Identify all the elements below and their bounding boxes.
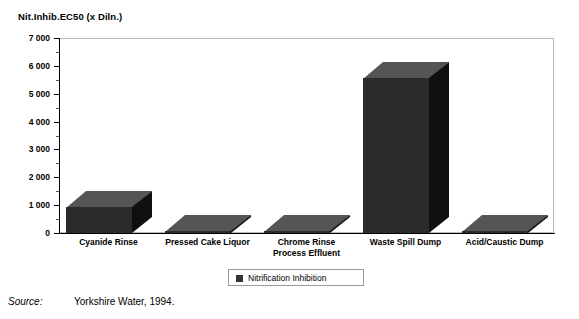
source-label: Source: <box>8 296 42 307</box>
x-category-label-line: Waste Spill Dump <box>352 237 459 248</box>
legend-label-nitrification-inhibition: Nitrification Inhibition <box>248 273 326 283</box>
bar-top-face <box>165 215 251 232</box>
x-category-label: Waste Spill Dump <box>352 237 459 248</box>
x-category-label: Acid/Caustic Dump <box>451 237 558 248</box>
legend-swatch-nitrification-inhibition <box>236 275 243 282</box>
bar-front-face <box>363 78 429 233</box>
bar-front-face <box>66 207 132 233</box>
chart-figure: Nit.Inhib.EC50 (x Diln.) 7 0006 0005 000… <box>0 0 579 319</box>
bar-top-face <box>264 215 350 232</box>
bar-side-face <box>429 62 449 233</box>
x-category-label-line: Process Effluent <box>253 248 360 259</box>
x-category-label-line: Chrome Rinse <box>253 237 360 248</box>
x-category-label: Chrome RinseProcess Effluent <box>253 237 360 259</box>
bar-front-face <box>264 231 330 233</box>
x-category-label: Pressed Cake Liquor <box>154 237 261 248</box>
x-category-label-line: Cyanide Rinse <box>55 237 162 248</box>
bar-front-face <box>462 231 528 233</box>
source-text: Yorkshire Water, 1994. <box>74 296 174 307</box>
bar-top-face <box>462 215 548 232</box>
bar-front-face <box>165 231 231 233</box>
chart-legend: Nitrification Inhibition <box>228 269 364 286</box>
x-category-label-line: Pressed Cake Liquor <box>154 237 261 248</box>
x-category-label: Cyanide Rinse <box>55 237 162 248</box>
x-category-label-line: Acid/Caustic Dump <box>451 237 558 248</box>
